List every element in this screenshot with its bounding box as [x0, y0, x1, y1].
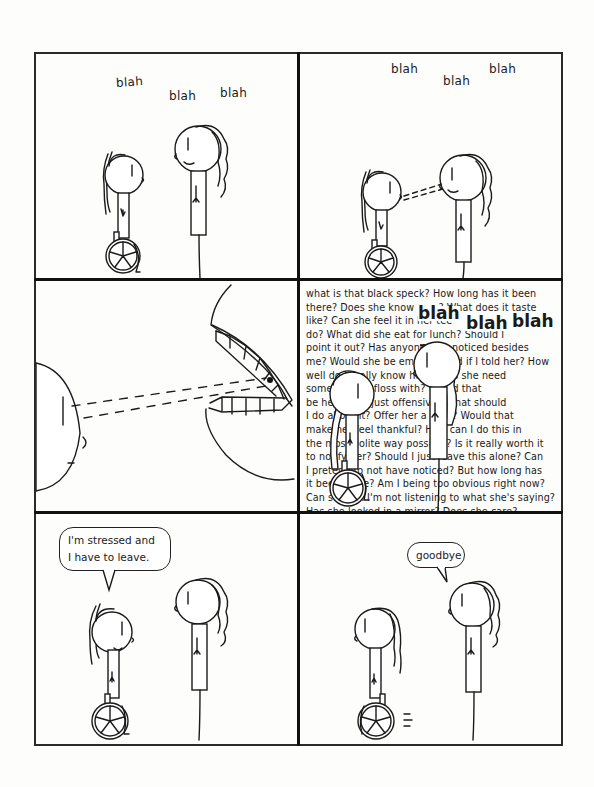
panel-1: blah blah blah	[36, 54, 297, 278]
characters-illustration	[300, 54, 561, 278]
motion-lines-icon	[404, 714, 412, 726]
wheelchair-user-figure	[330, 371, 374, 506]
standing-person-figure	[449, 582, 500, 741]
characters-illustration	[300, 514, 561, 744]
characters-illustration	[36, 514, 297, 744]
standing-person-figure	[440, 155, 492, 279]
panel-3	[36, 281, 297, 511]
standing-person-figure	[175, 579, 228, 741]
closeup-mouth-illustration	[36, 281, 297, 511]
observer-head-closeup	[36, 363, 86, 491]
talking-mouth-closeup	[206, 285, 294, 480]
wheelchair-user-figure	[362, 170, 402, 278]
panel-6: goodbye	[300, 514, 561, 744]
characters-illustration	[36, 54, 297, 278]
wheelchair-user-figure	[90, 604, 134, 739]
comic-page: blah blah blah	[0, 0, 594, 787]
standing-person-figure	[175, 126, 228, 279]
panel-5: I'm stressed and I have to leave.	[36, 514, 297, 744]
standing-person-figure	[414, 342, 460, 511]
panel-4: what is that black speck? How long has i…	[300, 281, 561, 511]
wheelchair-user-figure	[104, 152, 144, 273]
panel-2: blah blah blah	[300, 54, 561, 278]
characters-illustration	[300, 281, 561, 511]
wheelchair-user-figure	[355, 608, 412, 739]
